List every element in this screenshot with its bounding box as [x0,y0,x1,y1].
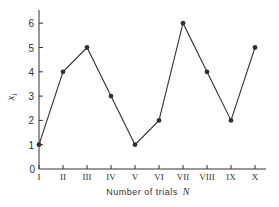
x-tick-label: II [60,172,66,182]
x-tick-label: I [38,172,41,182]
x-tick-label: IX [226,172,236,182]
data-point-marker [229,118,234,123]
x-tick-label: V [132,172,139,182]
x-tick-label: IV [106,172,116,182]
y-axis-label: xi [4,93,19,101]
x-tick-label: X [252,172,259,182]
series-line [39,23,255,145]
x-tick-label: III [83,172,92,182]
y-tick-label: 2 [28,115,34,126]
y-ticks: 0123456 [28,18,43,175]
data-point-marker [133,142,138,147]
y-tick-label: 5 [28,43,34,54]
data-point-marker [181,21,186,26]
data-point-marker [37,142,42,147]
x-tick-label: VII [177,172,190,182]
y-tick-label: 3 [28,91,34,102]
line-chart: 0123456 IIIIIIIVVVIVIIVIIIIXX xi Number … [0,0,279,207]
data-point-marker [157,118,162,123]
data-point-marker [61,69,66,74]
x-tick-label: VI [154,172,164,182]
data-point-marker [109,94,114,99]
data-point-marker [85,45,90,50]
y-tick-label: 1 [28,140,34,151]
x-ticks: IIIIIIIVVVIVIIVIIIIXX [38,165,259,182]
x-axis-label: Number of trialsN [106,186,191,197]
axes [39,10,266,169]
y-tick-label: 0 [29,164,35,175]
y-tick-label: 4 [28,67,34,78]
data-series [37,21,258,147]
y-tick-label: 6 [28,18,34,29]
data-point-marker [253,45,258,50]
data-point-marker [205,69,210,74]
x-tick-label: VIII [199,172,215,182]
